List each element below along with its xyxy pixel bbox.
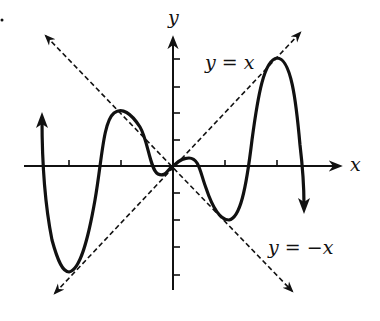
graph-figure: y x y = x y = −x bbox=[0, 0, 380, 321]
stray-dot bbox=[1, 19, 4, 22]
x-axis-label: x bbox=[350, 155, 361, 174]
line1-label: y = x bbox=[205, 53, 254, 72]
y-axis-label: y bbox=[168, 8, 179, 27]
graph-canvas bbox=[0, 0, 380, 321]
line2-label: y = −x bbox=[268, 238, 333, 257]
